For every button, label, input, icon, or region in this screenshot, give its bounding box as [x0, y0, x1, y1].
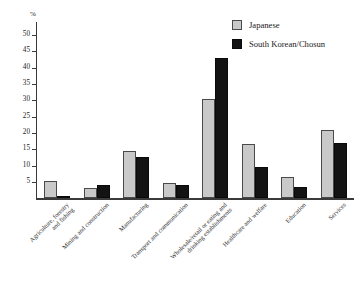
- legend-swatch-korean: [232, 39, 242, 49]
- bar-korean: [97, 185, 110, 199]
- bar-korean: [57, 196, 70, 199]
- y-axis-tick: [32, 51, 37, 52]
- y-axis-tick-label: 35: [2, 80, 30, 87]
- bar-group: [202, 22, 228, 198]
- bar-japanese: [44, 181, 57, 198]
- y-axis-tick: [32, 84, 37, 85]
- x-axis-tick-label: Education: [234, 201, 307, 274]
- legend-item: South Korean/Chosun: [232, 39, 325, 49]
- y-axis-tick-label: 30: [2, 96, 30, 103]
- bar-korean: [294, 187, 307, 198]
- y-axis-unit-label: %: [30, 10, 36, 18]
- y-axis-tick: [32, 149, 37, 150]
- y-axis-tick-label: 25: [2, 113, 30, 120]
- bar-group: [123, 22, 149, 198]
- legend-swatch-japanese: [232, 20, 242, 30]
- bar-japanese: [321, 130, 334, 198]
- y-axis-tick-label: 45: [2, 47, 30, 54]
- bar-group: [44, 22, 70, 198]
- y-axis-tick-label: 5: [2, 178, 30, 185]
- bar-korean: [255, 167, 268, 198]
- legend-item: Japanese: [232, 20, 325, 30]
- legend-label: Japanese: [249, 21, 280, 30]
- y-axis-tick-label: 10: [2, 162, 30, 169]
- y-axis-tick: [32, 182, 37, 183]
- bar-japanese: [123, 151, 136, 198]
- y-axis-tick-label: 15: [2, 145, 30, 152]
- y-axis-tick-label: 20: [2, 129, 30, 136]
- y-axis-tick: [32, 100, 37, 101]
- bar-japanese: [281, 177, 294, 198]
- bar-korean: [215, 58, 228, 199]
- bar-chart: % 5101520253035404550 Agriculture, fores…: [0, 0, 362, 290]
- x-axis-tick-label: Manufacturing: [76, 201, 149, 274]
- bar-japanese: [163, 183, 176, 198]
- y-axis-tick: [32, 166, 37, 167]
- y-axis-tick: [32, 117, 37, 118]
- bar-japanese: [84, 188, 97, 198]
- x-axis-tick-label: Services: [274, 201, 347, 274]
- y-axis-tick: [32, 68, 37, 69]
- y-axis-tick-label: 40: [2, 64, 30, 71]
- y-axis-tick: [32, 35, 37, 36]
- bar-group: [163, 22, 189, 198]
- bar-korean: [136, 157, 149, 198]
- bar-japanese: [202, 99, 215, 199]
- bar-korean: [176, 185, 189, 199]
- x-axis-line: [36, 198, 354, 199]
- legend-label: South Korean/Chosun: [249, 40, 325, 49]
- bar-japanese: [242, 144, 255, 199]
- bar-korean: [334, 143, 347, 199]
- y-axis-tick-label: 50: [2, 31, 30, 38]
- y-axis-tick: [32, 133, 37, 134]
- chart-legend: JapaneseSouth Korean/Chosun: [232, 20, 325, 58]
- bar-group: [84, 22, 110, 198]
